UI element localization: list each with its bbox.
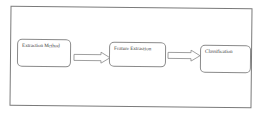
node-feature-extraction: Feature Extraction bbox=[109, 42, 166, 68]
arrow-icon bbox=[73, 51, 111, 63]
node-label: Extraction Method bbox=[22, 43, 60, 48]
diagram-frame: Extraction Method Feature Extraction Cla… bbox=[9, 6, 252, 109]
node-classification: Classification bbox=[200, 45, 251, 74]
node-label: Feature Extraction bbox=[114, 46, 151, 51]
node-extraction-method: Extraction Method bbox=[17, 39, 71, 68]
arrow-icon bbox=[167, 49, 201, 61]
node-label: Classification bbox=[205, 49, 233, 54]
